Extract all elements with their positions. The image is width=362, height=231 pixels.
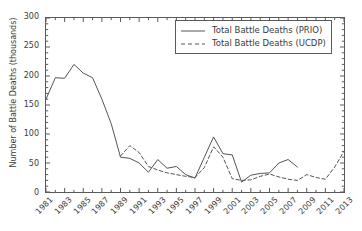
chart-legend: Total Battle Deaths (PRIO)Total Battle D…: [175, 20, 332, 54]
series-line-prio: [46, 64, 297, 182]
series-line-ucdp: [121, 146, 345, 181]
legend-label: Total Battle Deaths (PRIO): [212, 26, 322, 35]
legend-entry: Total Battle Deaths (PRIO): [180, 24, 326, 37]
chart-figure: Number of Battle Deaths (thousands) 0501…: [0, 0, 362, 231]
legend-entry: Total Battle Deaths (UCDP): [180, 37, 326, 50]
dashed-line-icon: [180, 39, 206, 49]
legend-label: Total Battle Deaths (UCDP): [212, 39, 326, 48]
solid-line-icon: [180, 26, 206, 36]
